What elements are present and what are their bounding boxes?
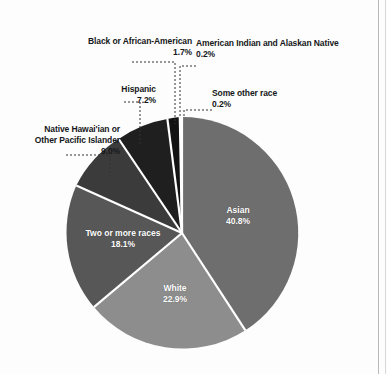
slice-percent-asian: 40.8% (203, 216, 273, 227)
callout-percent-native-hawaiian: 9.0% (8, 146, 120, 157)
slice-label-two-or-more-races: Two or more races 18.1% (68, 228, 178, 250)
pie-chart-figure: Black or African-American 1.7% American … (0, 0, 387, 374)
leader-line-american-indian (180, 66, 196, 116)
callout-label-native-hawaiian-line1: Native Hawai'ian or (44, 124, 120, 134)
callout-label-some-other-race: Some other race (212, 88, 277, 98)
slice-label-white: White 22.9% (142, 283, 208, 305)
callout-label-native-hawaiian-line2: Other Pacific Islander (35, 135, 120, 145)
slice-label-text-asian: Asian (226, 205, 249, 215)
callout-american-indian: American Indian and Alaskan Native 0.2% (196, 38, 346, 60)
callout-label-american-indian: American Indian and Alaskan Native (196, 38, 339, 48)
slice-label-text-white: White (163, 283, 186, 293)
callout-percent-hispanic: 7.2% (78, 95, 156, 106)
callout-percent-some-other-race: 0.2% (212, 99, 332, 110)
slice-percent-white: 22.9% (142, 294, 208, 305)
callout-label-hispanic: Hispanic (121, 84, 156, 94)
slice-label-text-two-or-more-races: Two or more races (86, 228, 161, 238)
callout-percent-black-african-american: 1.7% (62, 47, 192, 58)
slice-percent-two-or-more-races: 18.1% (68, 239, 178, 250)
callout-label-black-african-american: Black or African-American (88, 36, 192, 46)
callout-hispanic: Hispanic 7.2% (78, 84, 156, 106)
slice-label-asian: Asian 40.8% (203, 205, 273, 227)
callout-percent-american-indian: 0.2% (196, 49, 346, 60)
leader-line-some-other-race (184, 110, 212, 117)
callout-native-hawaiian: Native Hawai'ian or Other Pacific Island… (8, 124, 120, 157)
callout-some-other-race: Some other race 0.2% (212, 88, 332, 110)
callout-black-african-american: Black or African-American 1.7% (62, 36, 192, 58)
